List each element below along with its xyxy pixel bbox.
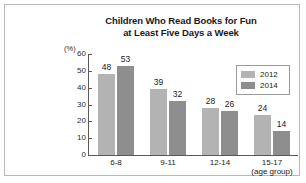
legend-swatch-2014 [241,82,255,89]
bar-value-label: 48 [98,63,115,72]
bar-value-label: 26 [221,100,238,109]
bar [273,131,290,155]
y-tick-label: 0 [64,151,86,159]
chart-title-line-2: at Least Five Days a Week [65,27,297,39]
x-category-label: 15-17 [245,158,299,167]
y-tick-mark [89,88,92,89]
x-axis-line [88,155,298,156]
y-tick-mark [89,71,92,72]
y-tick-label: 40 [64,84,86,92]
y-tick-mark [89,54,92,55]
legend-item-2012: 2012 [241,69,285,80]
bar [169,101,186,155]
y-tick-mark [89,105,92,106]
bar-value-label: 24 [254,104,271,113]
x-axis-label: (age group) [240,167,304,176]
y-tick-label: 10 [64,134,86,142]
y-tick-mark [89,138,92,139]
y-axis-tick-labels: 6050403020100 [62,5,86,183]
x-category-label: 12-14 [193,158,247,167]
legend-label-2012: 2012 [260,70,278,79]
y-tick-label: 60 [64,50,86,58]
legend-swatch-2012 [241,71,255,78]
bar [150,89,167,155]
y-tick-mark [89,121,92,122]
legend-item-2014: 2014 [241,80,285,91]
chart-frame: Children Who Read Books for Fun at Least… [4,4,300,176]
x-category-label: 6-8 [89,158,143,167]
bar-value-label: 28 [202,97,219,106]
chart-legend: 2012 2014 [236,65,290,95]
bar-value-label: 39 [150,78,167,87]
bar [254,115,271,155]
chart-title: Children Who Read Books for Fun at Least… [65,15,297,39]
bar-value-label: 32 [169,90,186,99]
bar [98,74,115,155]
bar [117,66,134,155]
x-category-label: 9-11 [141,158,195,167]
chart-title-line-1: Children Who Read Books for Fun [65,15,297,27]
legend-label-2014: 2014 [260,81,278,90]
y-tick-label: 50 [64,67,86,75]
y-tick-label: 30 [64,101,86,109]
bar [221,111,238,155]
bar [202,108,219,155]
bar-value-label: 14 [273,120,290,129]
bar-value-label: 53 [117,55,134,64]
y-tick-label: 20 [64,117,86,125]
